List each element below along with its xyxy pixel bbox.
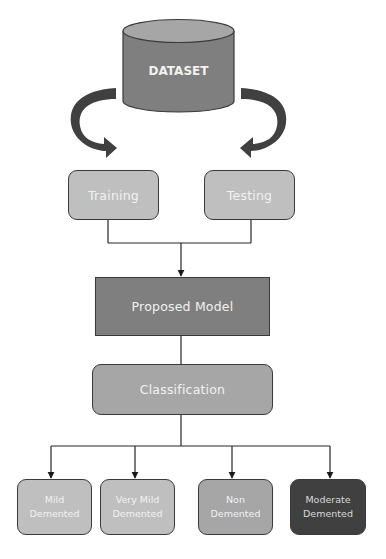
- proposed-model-label: Proposed Model: [132, 299, 234, 314]
- class-label-line2: Demented: [113, 507, 163, 521]
- class-label-line2: Demented: [303, 507, 353, 521]
- class-label-line1: Very Mild: [116, 493, 160, 507]
- classification-node: Classification: [92, 364, 273, 415]
- class-very-mild-demented: Very Mild Demented: [100, 479, 175, 535]
- class-label-line2: Demented: [211, 507, 261, 521]
- class-mild-demented: Mild Demented: [17, 479, 92, 535]
- class-non-demented: Non Demented: [198, 479, 273, 535]
- curved-arrow-right-icon: [240, 88, 286, 158]
- testing-label: Testing: [227, 188, 272, 203]
- class-label-line1: Mild: [45, 493, 65, 507]
- training-node: Training: [68, 170, 159, 220]
- training-label: Training: [88, 188, 139, 203]
- merge-connector: [108, 220, 251, 276]
- classification-label: Classification: [140, 382, 226, 397]
- class-label-line1: Moderate: [305, 493, 350, 507]
- class-moderate-demented: Moderate Demented: [290, 479, 366, 535]
- testing-node: Testing: [204, 170, 295, 220]
- proposed-model-node: Proposed Model: [95, 277, 270, 336]
- fanout-connector: [51, 415, 330, 478]
- curved-arrow-left-icon: [71, 88, 117, 158]
- class-label-line1: Non: [226, 493, 245, 507]
- dataset-label: DATASET: [123, 64, 234, 78]
- class-label-line2: Demented: [30, 507, 80, 521]
